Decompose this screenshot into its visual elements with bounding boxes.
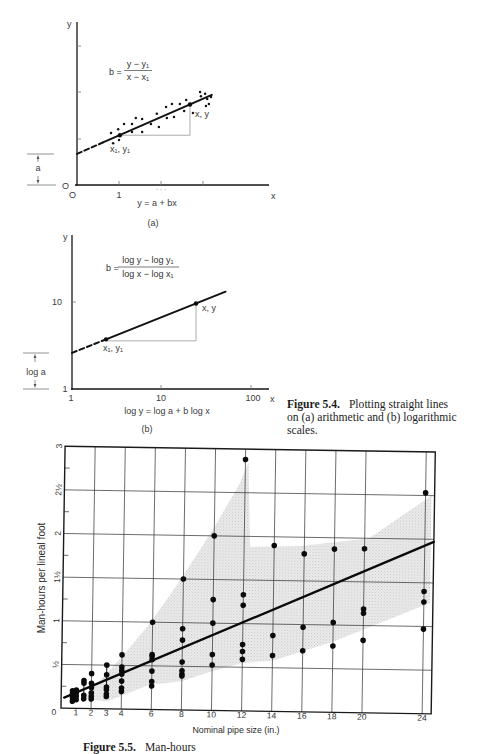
fig-a-intercept-label: a	[35, 163, 40, 173]
fig-c-data-point	[330, 643, 336, 649]
fig-c-data-point	[104, 662, 110, 668]
fig-c-y-axis-title: Man-hours per lineal foot	[36, 522, 47, 633]
fig-b-y-axis-label: y	[63, 232, 68, 242]
fig-c-y-tick-label: 1	[51, 618, 61, 623]
fig-a-data-point	[131, 131, 134, 134]
fig-c-data-point	[243, 457, 249, 463]
fig-b-point1-label: x₁, y₁	[103, 343, 123, 353]
fig-b-intercept-label: log a	[26, 367, 46, 377]
fig-c-plot-area: 012346810121416182024½11½22½3	[50, 443, 435, 722]
fig-a-arrowhead-up-icon	[37, 155, 40, 159]
figure-5-5: 012346810121416182024½11½22½3 Man-hours …	[36, 443, 435, 735]
fig-a-data-point	[135, 117, 138, 120]
fig-c-x-tick-label: 2	[89, 708, 94, 718]
caption-figure-label: Figure 5.4.	[287, 398, 340, 411]
fig-a-data-point	[165, 106, 168, 109]
fig-b-panel-label: (b)	[142, 424, 153, 434]
fig-b-y-tick-label: 10	[52, 297, 62, 307]
fig-a-data-point	[123, 123, 126, 126]
fig-c-x-tick-label: 14	[267, 710, 277, 720]
fig-c-x-tick-label: 1	[74, 707, 79, 717]
fig-a-data-point	[141, 118, 144, 121]
fig-a-data-point	[158, 126, 161, 129]
fig-a-point2-label: x, y	[195, 109, 210, 119]
fig-a-data-point	[117, 128, 120, 131]
fig-b-formula-numerator: log y − log y₁	[122, 255, 173, 265]
fig-b-x-axis-label: x	[270, 394, 275, 404]
fig-a-data-point	[150, 123, 153, 126]
fig-a-data-point	[204, 93, 207, 96]
fig-a-point1-label: x₁, y₁	[110, 144, 130, 154]
fig-c-y-tick-label: ½	[51, 661, 61, 668]
fig-a-data-point	[156, 113, 159, 116]
fig-c-x-tick-label: 6	[149, 708, 154, 718]
fig-a-origin-y-label: O	[62, 181, 69, 191]
fig-a-marked-point	[188, 102, 192, 106]
fig-c-data-point	[421, 626, 427, 632]
fig-a-x-tick-label: · · ·	[156, 186, 166, 193]
fig-c-x-tick-label: 24	[417, 713, 427, 723]
fig-a-data-point	[208, 103, 211, 106]
fig-a-x-tick-label: 1	[116, 190, 121, 200]
fig-c-y-tick-label: 1½	[52, 571, 62, 583]
fig-c-gridline-horizontal	[64, 490, 434, 496]
fig-b-fit-line	[106, 292, 226, 340]
fig-c-x-tick-label: 8	[179, 709, 184, 719]
caption-text: Man-hours	[145, 741, 196, 754]
fig-c-x-tick-label: 4	[119, 708, 124, 718]
fig-a-origin-x-label: O	[69, 190, 76, 200]
fig-a-arrowhead-down-icon	[37, 180, 40, 184]
fig-b-x-tick-label: 10	[156, 393, 166, 403]
fig-b-point2-label: x, y	[202, 303, 217, 313]
caption-line-3: scales.	[287, 424, 457, 437]
fig-a-data-point	[118, 139, 121, 142]
fig-b-y-tick-label: 1	[62, 384, 67, 394]
figure-5-4a: y x O O 1 · · · b = y − y₁ x − x₁ a x₁, …	[27, 19, 276, 228]
fig-b-marked-point	[104, 337, 108, 341]
fig-c-data-point	[360, 638, 366, 644]
fig-a-data-point	[183, 110, 186, 113]
fig-a-plot-marks	[77, 91, 212, 154]
figure-5-5-caption-partial: Figure 5.5.Man-hours	[83, 741, 196, 754]
fig-c-y-tick-label: 2½	[53, 484, 63, 496]
fig-a-data-point	[206, 98, 209, 101]
fig-c-y-tick-label: 3	[54, 443, 64, 448]
fig-a-data-point	[173, 116, 176, 119]
fig-b-equation: log y = log a + b log x	[124, 406, 210, 416]
fig-a-data-point	[141, 131, 144, 134]
fig-a-data-point	[171, 103, 174, 106]
fig-b-formula-lhs: b =	[106, 263, 119, 273]
fig-a-x-axis-label: x	[271, 191, 276, 201]
fig-a-data-point	[200, 95, 203, 98]
fig-a-panel-label: (a)	[148, 218, 159, 228]
fig-a-data-point	[210, 96, 213, 99]
fig-c-x-axis-title: Nominal pipe size (in.)	[192, 725, 279, 735]
fig-a-data-point	[185, 99, 188, 102]
fig-c-x-tick-label: 20	[357, 712, 367, 722]
fig-c-y-tick-label: 2	[53, 531, 63, 536]
fig-c-data-point	[423, 490, 429, 496]
caption-figure-label: Figure 5.5.	[83, 741, 136, 754]
fig-b-extrapolated-line	[72, 339, 106, 353]
fig-b-plot-marks	[72, 292, 226, 353]
fig-a-data-point	[205, 105, 208, 108]
fig-b-arrowhead-up-icon	[34, 354, 37, 358]
fig-c-x-tick-label: 12	[237, 710, 247, 720]
fig-b-arrowhead-down-icon	[34, 384, 37, 388]
caption-line-1: Figure 5.4.Plotting straight lines	[287, 398, 457, 411]
fig-a-equation: y = a + bx	[137, 198, 177, 208]
fig-a-formula-numerator: y − y₁	[127, 59, 149, 69]
fig-a-extrapolated-line	[77, 142, 103, 153]
fig-a-data-point	[110, 132, 113, 135]
fig-a-data-point	[192, 112, 195, 115]
fig-a-data-point	[166, 117, 169, 120]
fig-c-x-tick-label: 16	[297, 711, 307, 721]
fig-c-x-tick-label: 10	[207, 709, 217, 719]
fig-b-marked-point	[194, 301, 198, 305]
fig-a-y-axis-label: y	[67, 19, 72, 29]
fig-a-formula-denominator: x − x₁	[127, 72, 149, 82]
caption-line-2: on (a) arithmetic and (b) logarithmic	[287, 411, 457, 424]
caption-text: Plotting straight lines	[349, 398, 448, 411]
fig-b-formula-denominator: log x − log x₁	[122, 269, 173, 279]
